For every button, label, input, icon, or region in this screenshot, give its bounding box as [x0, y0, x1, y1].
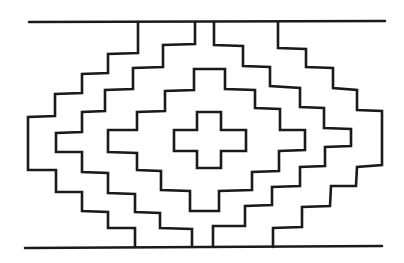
left-outer-step-line: [28, 22, 138, 247]
right-outer-step-line: [273, 22, 382, 247]
motif-canvas: Stepped diamond textile motif: [0, 0, 404, 263]
center-cross: [174, 112, 246, 168]
bottom-border-line: [25, 246, 382, 248]
top-border-line: [29, 21, 385, 22]
right-inner-step-line: [213, 22, 351, 247]
stepped-diamond-drawing: [0, 0, 404, 263]
center-stepped-diamond: [108, 69, 305, 211]
